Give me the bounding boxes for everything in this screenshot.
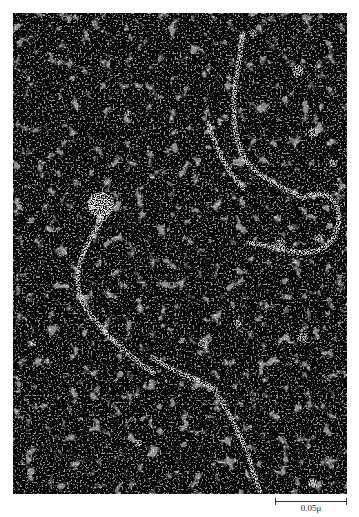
bright-particle — [88, 192, 114, 218]
scale-line — [275, 501, 347, 502]
micrograph-image — [13, 13, 347, 494]
micrograph-svg — [13, 13, 347, 494]
scale-label: 0.05μ — [275, 503, 347, 513]
